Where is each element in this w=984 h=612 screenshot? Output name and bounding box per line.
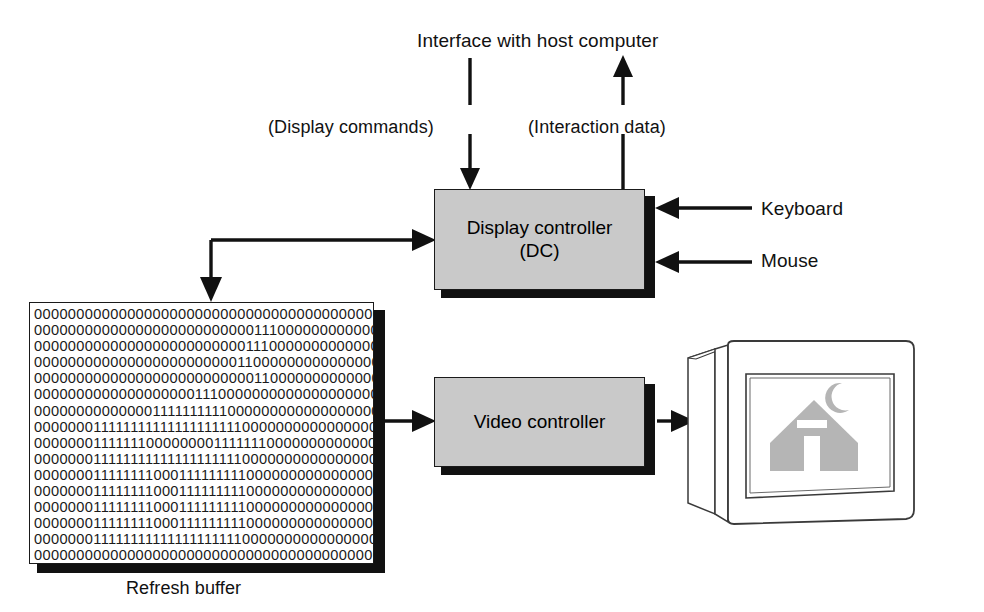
video-controller-box[interactable]: Video controller <box>434 377 645 467</box>
label-mouse: Mouse <box>761 250 819 272</box>
refresh-buffer-box[interactable]: 0000000000000000000000000000000000000000… <box>29 302 374 564</box>
arrow-mouse-to-dc <box>655 251 752 273</box>
refresh-buffer-row: 0000000111111100000000111111100000000000… <box>34 435 373 451</box>
video-controller-label: Video controller <box>474 411 606 433</box>
monitor-side-panel <box>688 349 715 514</box>
refresh-buffer-row: 0000000000000000000111000000000000000000… <box>34 386 373 402</box>
video-controller-shadow-right <box>645 384 655 474</box>
label-host-interface: Interface with host computer <box>417 30 658 52</box>
refresh-buffer-row: 0000000111111111111111111110000000000000… <box>34 419 373 435</box>
refresh-buffer-row: 0000000000000000000000000000000000000000… <box>34 306 373 322</box>
arrow-keyboard-to-dc <box>655 197 752 219</box>
refresh-buffer-row: 0000000000000000000000000111000000000000… <box>34 338 373 354</box>
label-interaction-data: (Interaction data) <box>528 117 666 138</box>
label-display-commands: (Display commands) <box>268 117 434 138</box>
label-keyboard: Keyboard <box>761 198 843 220</box>
refresh-buffer-row: 0000000111111110001111111110000000000000… <box>34 515 373 531</box>
refresh-buffer-row: 0000000000000000000000000011100000000000… <box>34 322 373 338</box>
refresh-buffer-row: 0000000000000011111111110000000000000000… <box>34 403 373 419</box>
display-controller-shadow-right <box>645 196 655 297</box>
display-controller-label-line2: (DC) <box>519 240 559 262</box>
refresh-buffer-row: 0000000111111111111111111110000000000000… <box>34 531 373 547</box>
video-controller-shadow-bottom <box>441 467 655 475</box>
arrow-host-to-dc <box>460 58 480 190</box>
refresh-buffer-row: 0000000000000000000000000011000000000000… <box>34 370 373 386</box>
refresh-buffer-row: 0000000111111110001111111110000000000000… <box>34 499 373 515</box>
refresh-buffer-row: 0000000000000000000000001100000000000000… <box>34 354 373 370</box>
refresh-buffer-row: 0000000111111110001111111110000000000000… <box>34 467 373 483</box>
refresh-buffer-row: 0000000000000000000000000000000000000000… <box>34 547 373 563</box>
crt-monitor-graphic <box>682 338 950 548</box>
arrow-buffer-to-dc <box>200 229 436 302</box>
display-controller-shadow-bottom <box>441 290 655 298</box>
crt-monitor[interactable] <box>682 338 950 548</box>
label-refresh-buffer: Refresh buffer <box>126 578 241 599</box>
refresh-buffer-shadow-bottom <box>37 564 385 573</box>
display-controller-box[interactable]: Display controller (DC) <box>434 189 645 290</box>
refresh-buffer-shadow-right <box>374 310 385 572</box>
refresh-buffer-row: 0000000111111110001111111110000000000000… <box>34 483 373 499</box>
monitor-mid-shell <box>715 345 728 522</box>
display-controller-label-line1: Display controller <box>467 217 613 239</box>
refresh-buffer-row: 0000000111111111111111111110000000000000… <box>34 451 373 467</box>
